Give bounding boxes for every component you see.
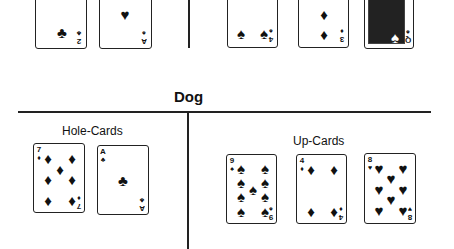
card-index: 7♦	[75, 195, 83, 210]
heart-icon: ♥	[399, 182, 408, 197]
card-4-diamonds: 4♦ ♦ ♦ ♦ ♦ 4♦	[296, 154, 347, 224]
card-index: 7♦	[35, 146, 43, 161]
card-index: A♣	[138, 197, 146, 212]
heart-icon: ♥	[375, 161, 384, 176]
column-divider	[187, 112, 189, 249]
diamond-icon: ♦	[68, 151, 76, 166]
spade-icon: ♠	[237, 26, 245, 41]
card-index: 2♣	[75, 30, 83, 45]
diamond-icon: ♦	[320, 7, 328, 22]
section-title: Dog	[174, 88, 203, 105]
club-icon: ♣	[118, 173, 128, 188]
card-index: A♠	[140, 30, 148, 45]
spade-icon: ♠	[249, 182, 257, 197]
card-2-clubs: ♣ 2♣	[35, 0, 87, 49]
diamond-icon: ♦	[330, 162, 338, 177]
club-icon: ♣	[57, 25, 67, 40]
card-7-diamonds: 7♦ ♦ ♦ ♦ ♦ ♦ ♦ ♦ 7♦	[33, 143, 85, 213]
card-index: 8♥	[366, 156, 374, 171]
diamond-icon: ♦	[307, 162, 315, 177]
card-queen-spades: ♠ Q♠	[364, 0, 414, 49]
heart-icon: ♥	[121, 7, 130, 22]
spade-icon: ♠	[261, 189, 269, 204]
card-ace-clubs: A♣ ♣ A♣	[97, 145, 149, 215]
card-index: Q♠	[404, 29, 412, 44]
card-index: 8♥	[406, 206, 414, 221]
face-card-artwork	[368, 0, 405, 44]
card-8-hearts: 8♥ ♥ ♥ ♥ ♥ ♥ ♥ ♥ ♥ 8♥	[364, 153, 416, 224]
card-index: 4♦	[337, 206, 345, 221]
diamond-icon: ♦	[56, 162, 64, 177]
spade-icon: ♠	[391, 30, 399, 45]
card-index: 4♦	[298, 157, 306, 172]
heart-icon: ♥	[375, 182, 384, 197]
hole-cards-label: Hole-Cards	[62, 124, 123, 138]
diamond-icon: ♦	[68, 172, 76, 187]
diamond-icon: ♦	[44, 193, 52, 208]
card-3-diamonds: ♦ ♦ 3♦	[298, 0, 349, 48]
spade-icon: ♠	[237, 189, 245, 204]
card-index: 3♦	[338, 28, 346, 43]
top-divider	[188, 0, 190, 48]
card-ace-hearts: ♥ A♠	[99, 0, 152, 49]
diamond-icon: ♦	[44, 172, 52, 187]
card-4-spades: ♠ ♠ 4♠	[227, 0, 278, 48]
heart-icon: ♥	[375, 203, 384, 218]
diamond-icon: ♦	[307, 204, 315, 219]
card-index: 4♠	[267, 28, 275, 43]
card-9-spades: 9♠ ♠ ♠ ♠ ♠ ♠ ♠ ♠ ♠ ♠ 9♠	[226, 154, 277, 224]
card-index: 9♠	[228, 157, 236, 172]
spade-icon: ♠	[237, 204, 245, 219]
card-index: 9♠	[267, 206, 275, 221]
heart-icon: ♥	[387, 192, 396, 207]
heart-icon: ♥	[387, 171, 396, 186]
up-cards-label: Up-Cards	[293, 134, 344, 148]
heart-icon: ♥	[399, 161, 408, 176]
diamond-icon: ♦	[44, 151, 52, 166]
header-rule	[18, 111, 431, 113]
diamond-icon: ♦	[320, 27, 328, 42]
card-index: A♣	[99, 148, 107, 163]
